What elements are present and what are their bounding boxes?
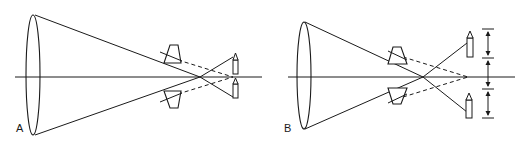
panel-label-a: A <box>16 122 24 134</box>
ray-b-bottom-cont <box>423 43 467 77</box>
panel-b: B <box>284 22 515 134</box>
ray-a-top-cont <box>200 77 233 97</box>
double-arrow-icon-middle <box>486 60 491 87</box>
optics-figure: A <box>0 0 525 143</box>
ray-b-bottom <box>305 77 423 129</box>
prism-a-top <box>164 45 181 63</box>
lens-a <box>26 15 40 135</box>
double-arrow-icon-upper <box>486 31 491 56</box>
candle-icon-b-upper <box>467 31 473 57</box>
candle-icon-b-lower <box>466 93 472 118</box>
panel-a: A <box>15 15 262 135</box>
candle-icon-a-upper <box>233 53 238 74</box>
ray-b-top <box>305 22 423 77</box>
double-arrow-icon-lower <box>486 91 491 116</box>
ray-a-bottom-cont <box>200 57 233 77</box>
panel-label-b: B <box>284 122 291 134</box>
ray-b-top-cont <box>423 77 467 112</box>
lens-b <box>297 22 311 129</box>
candle-icon-a-lower <box>233 78 238 98</box>
